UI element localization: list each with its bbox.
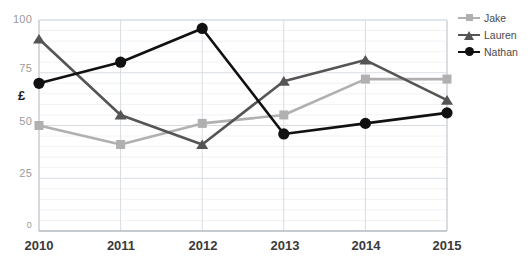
y-axis-title: £ <box>18 88 25 103</box>
legend-label-lauren: Lauren <box>484 29 517 41</box>
y-tick-label-0: 0 <box>4 220 32 230</box>
x-tick-label-2013: 2013 <box>255 238 315 253</box>
y-tick-label-75: 75 <box>4 62 32 74</box>
legend-item-nathan[interactable]: Nathan <box>458 44 532 59</box>
x-tick-label-2011: 2011 <box>91 238 151 253</box>
y-tick-label-100: 100 <box>4 13 32 25</box>
legend-swatch-square-icon <box>458 12 480 24</box>
legend-swatch-circle-icon <box>458 46 480 58</box>
legend-item-jake[interactable]: Jake <box>458 10 532 25</box>
legend-label-nathan: Nathan <box>484 46 518 58</box>
x-tick-label-2010: 2010 <box>9 238 69 253</box>
plot-area <box>0 0 532 259</box>
legend-swatch-triangle-icon <box>458 29 480 41</box>
legend-label-jake: Jake <box>484 12 506 24</box>
line-chart: 100 75 50 25 0 £ 2010 2011 2012 2013 201… <box>0 0 532 259</box>
x-tick-label-2015: 2015 <box>417 238 477 253</box>
y-tick-label-50: 50 <box>4 115 32 127</box>
y-tick-label-25: 25 <box>4 167 32 179</box>
x-tick-label-2014: 2014 <box>336 238 396 253</box>
chart-legend: Jake Lauren Nathan <box>458 10 532 61</box>
legend-item-lauren[interactable]: Lauren <box>458 27 532 42</box>
x-tick-label-2012: 2012 <box>173 238 233 253</box>
